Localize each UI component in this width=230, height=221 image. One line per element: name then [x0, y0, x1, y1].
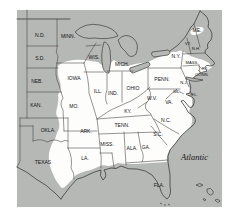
state-label-nc: N.C. [161, 117, 171, 123]
state-label-kan: KAN. [30, 102, 42, 108]
state-label-ga: GA. [142, 144, 151, 150]
state-label-ala: ALA. [127, 145, 138, 151]
state-label-del: DEL. [188, 92, 197, 97]
state-label-vt: VT. [185, 41, 191, 46]
state-label-ny: N.Y. [171, 53, 180, 59]
state-label-ark: ARK. [80, 128, 92, 134]
state-label-penn: PENN. [154, 76, 169, 82]
state-label-mich: MICH. [115, 61, 129, 67]
state-label-nd: N.D. [35, 32, 45, 38]
state-label-nh: N.H. [192, 46, 200, 51]
state-label-md: MD. [173, 89, 181, 94]
state-label-miss: MISS. [100, 141, 114, 147]
state-label-fla: FLA. [154, 182, 165, 188]
state-label-sd: S.D. [35, 55, 45, 61]
state-label-texas: TEXAS [35, 159, 52, 165]
state-label-la: LA. [81, 155, 89, 161]
state-label-nj: N.J. [180, 80, 187, 85]
state-label-tenn: TENN. [115, 122, 130, 128]
state-label-sc: S.C. [153, 131, 163, 137]
state-label-mass: MASS. [185, 60, 198, 65]
state-label-va: VA. [165, 99, 173, 105]
state-label-minn: MINN. [61, 33, 75, 39]
state-label-iowa: IOWA [67, 75, 81, 81]
atlantic-ocean-label: Atlantic [180, 152, 208, 162]
state-label-okla: OKLA. [41, 127, 56, 133]
state-label-me: ME. [193, 27, 202, 33]
state-label-ohio: OHIO [127, 85, 140, 91]
us-range-map: N.D.MINN.S.D.WIS.NEB.IOWAILL.IND.OHIOMIC… [0, 0, 230, 221]
state-label-ill: ILL. [94, 88, 102, 94]
state-label-ky: KY. [124, 108, 131, 114]
state-label-conn: CONN. [195, 72, 209, 77]
state-label-mo: MO. [69, 103, 78, 109]
state-label-neb: NEB. [31, 78, 43, 84]
state-label-ind: IND. [108, 90, 118, 96]
page: { "map": { "description_label": "Atlanti… [0, 0, 230, 221]
state-label-ri: R.I. [202, 66, 209, 71]
state-label-wis: WIS. [89, 54, 100, 60]
state-label-wv: W.V. [147, 95, 157, 101]
